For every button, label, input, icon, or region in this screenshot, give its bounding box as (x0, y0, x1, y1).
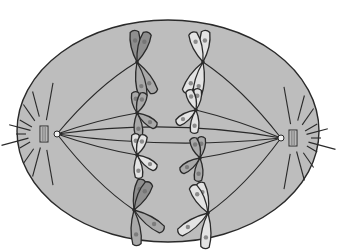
chromatid-band (185, 165, 189, 169)
chromatid-band (195, 192, 199, 196)
chromatid-band (203, 38, 207, 42)
cell-body (17, 20, 319, 242)
chromatid-band (140, 97, 144, 101)
chromatid-band (189, 81, 193, 85)
centromere (135, 60, 139, 64)
centromere (198, 156, 202, 160)
chromatid-band (133, 38, 137, 42)
chromatid-band (181, 117, 185, 121)
chromatid-band (136, 127, 140, 131)
cell-membrane (17, 20, 319, 242)
cell-division-diagram (0, 0, 343, 250)
chromatid-band (143, 189, 147, 193)
chromatid-band (192, 124, 196, 128)
chromatid-band (147, 81, 151, 85)
centrosome-icon (278, 135, 284, 141)
centromere (135, 153, 139, 157)
chromatid-band (193, 142, 197, 146)
chromatid-band (139, 84, 143, 88)
chromatid-band (204, 235, 208, 239)
chromatid-band (148, 120, 152, 124)
centromere (194, 108, 198, 112)
chromatid-band (196, 172, 200, 176)
chromatid-band (134, 232, 138, 236)
chromatid-band (136, 169, 140, 173)
centromere (132, 208, 136, 212)
chromatid-band (197, 84, 201, 88)
chromatid-band (152, 222, 156, 226)
centromere (135, 111, 139, 115)
centrosome-icon (54, 131, 60, 137)
centromere (201, 60, 205, 64)
chromatid-band (193, 40, 197, 44)
chromatid-band (142, 40, 146, 44)
chromatid-band (140, 139, 144, 143)
diagram-canvas (0, 0, 343, 250)
chromatid-band (186, 225, 190, 229)
chromatid-band (148, 162, 152, 166)
centromere (206, 211, 210, 215)
chromatid-band (189, 94, 193, 98)
